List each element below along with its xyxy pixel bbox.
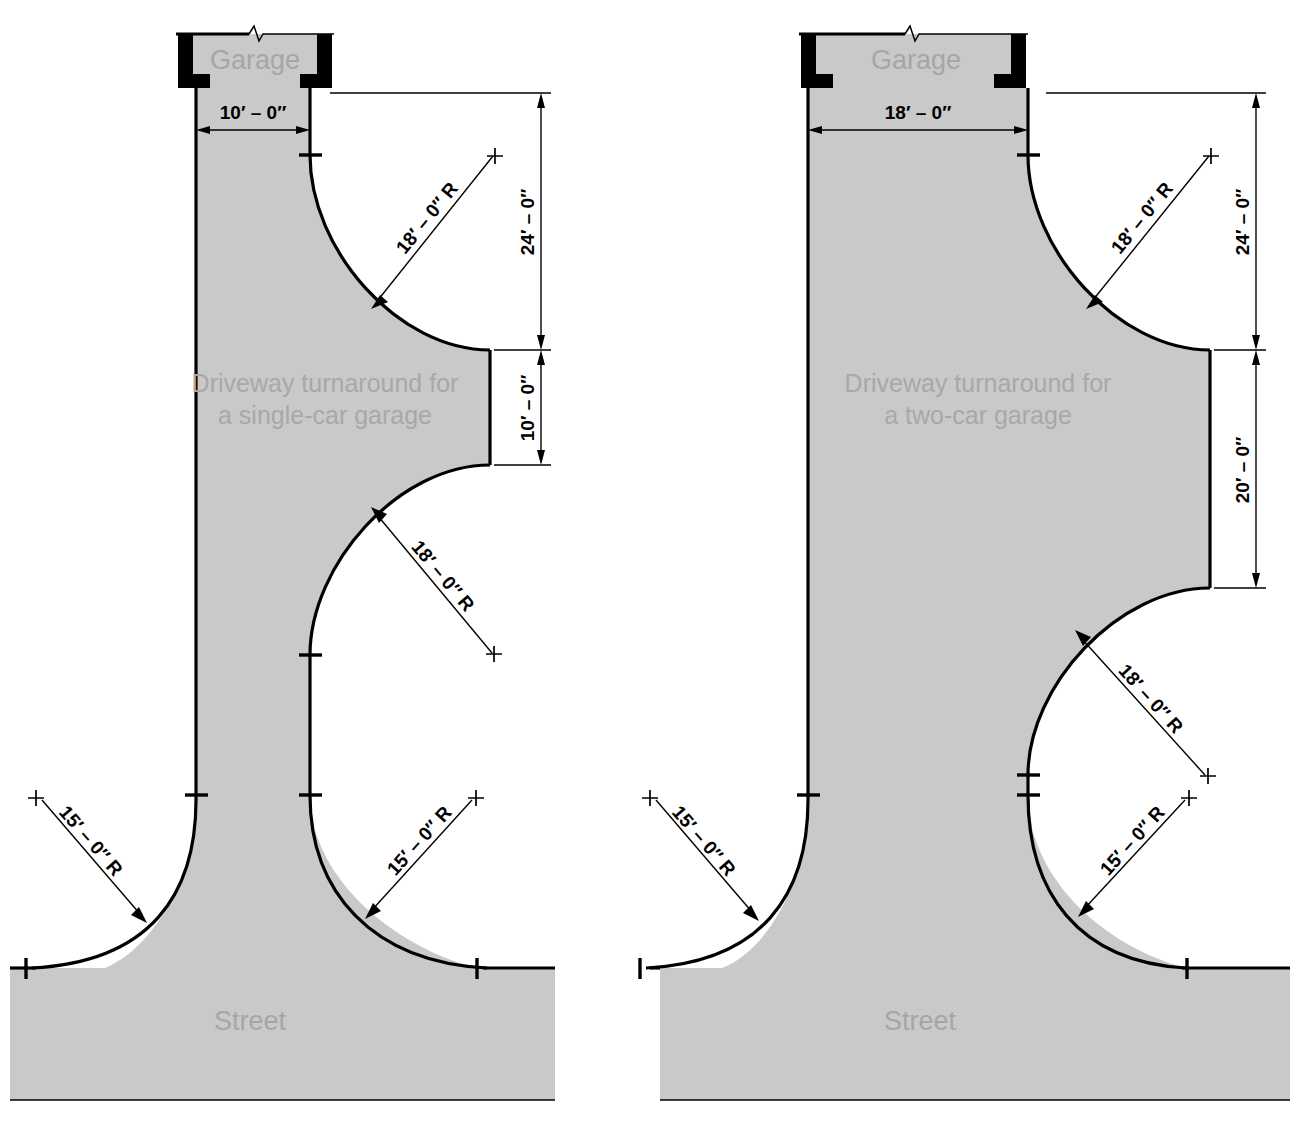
pavement-fill-two	[660, 34, 1290, 1100]
dimension-lower-vertical-two: 20′ – 0″	[1232, 350, 1260, 588]
dim-garage-width-label-two: 18′ – 0″	[885, 102, 951, 123]
radius-street-right-single: 15′ – 0″ R	[365, 790, 484, 919]
caption-line2-single: a single-car garage	[218, 401, 432, 429]
radius-street-right-two: 15′ – 0″ R	[1078, 790, 1197, 917]
radius-street-left-two: 15′ – 0″ R	[642, 790, 759, 921]
dim-upper-radius-label-single: 18′ – 0″ R	[392, 178, 462, 258]
dim-lower-vertical-label-single: 10′ – 0″	[517, 375, 538, 441]
dim-upper-radius-label-two: 18′ – 0″ R	[1107, 178, 1177, 258]
dim-garage-width-label-single: 10′ – 0″	[220, 102, 286, 123]
radius-lower-single: 18′ – 0″ R	[371, 507, 502, 662]
caption-line1-single: Driveway turnaround for	[192, 369, 459, 397]
radius-street-left-single: 15′ – 0″ R	[28, 790, 147, 923]
street-label-two: Street	[884, 1006, 957, 1036]
dimension-lower-vertical-single: 10′ – 0″	[517, 350, 545, 465]
dim-lower-radius-label-single: 18′ – 0″ R	[407, 536, 478, 615]
dim-street-radius-left-label-two: 15′ – 0″ R	[668, 802, 740, 881]
garage-label-two: Garage	[871, 45, 961, 75]
dim-lower-vertical-label-two: 20′ – 0″	[1232, 437, 1253, 503]
garage-label-single: Garage	[210, 45, 300, 75]
diagram-single-car: 10′ – 0″ 24′ – 0″ 10′ – 0″ 18′ – 0	[10, 26, 555, 1100]
dim-street-radius-right-label-single: 15′ – 0″ R	[383, 802, 456, 880]
caption-line2-two: a two-car garage	[884, 401, 1072, 429]
dim-street-radius-left-label-single: 15′ – 0″ R	[55, 802, 127, 881]
dimension-upper-vertical-single: 24′ – 0″	[517, 93, 545, 350]
drawing-canvas: 10′ – 0″ 24′ – 0″ 10′ – 0″ 18′ – 0	[0, 0, 1299, 1124]
dimension-upper-vertical-two: 24′ – 0″	[1232, 93, 1260, 350]
dim-street-radius-right-label-two: 15′ – 0″ R	[1096, 802, 1169, 880]
diagram-two-car: 18′ – 0″ 24′ – 0″ 20′ – 0″ 18′ – 0	[640, 26, 1290, 1100]
pavement-fill-single	[10, 34, 555, 1100]
dim-upper-vertical-label-single: 24′ – 0″	[517, 189, 538, 255]
radius-upper-two: 18′ – 0″ R	[1086, 148, 1219, 309]
dim-lower-radius-label-two: 18′ – 0″ R	[1114, 660, 1187, 738]
caption-line1-two: Driveway turnaround for	[845, 369, 1112, 397]
street-label-single: Street	[214, 1006, 287, 1036]
radius-lower-two: 18′ – 0″ R	[1075, 630, 1216, 784]
dim-upper-vertical-label-two: 24′ – 0″	[1232, 189, 1253, 255]
radius-upper-single: 18′ – 0″ R	[371, 148, 503, 309]
